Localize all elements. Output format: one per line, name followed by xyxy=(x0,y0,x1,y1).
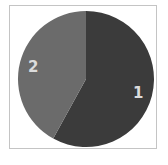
slice-label-1: 1 xyxy=(133,84,143,102)
pie-chart: 1 2 xyxy=(0,0,168,165)
slice-label-2: 2 xyxy=(28,58,38,76)
